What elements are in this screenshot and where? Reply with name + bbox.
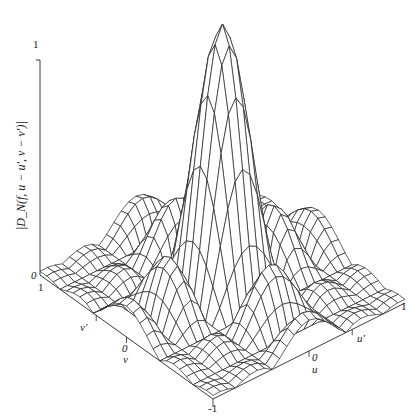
corner-tick-neg1: -1 [208,403,217,414]
surface-mesh [40,24,405,395]
z-tick-1: 1 [33,39,39,50]
z-tick-0: 0 [31,270,37,281]
v-axis-label: v [123,354,128,365]
u-prime-label: u′ [357,333,365,344]
surface-plot [0,0,412,419]
v-tick-1: 1 [38,282,44,293]
u-tick-0: 0 [312,352,318,363]
u-axis-label: u [312,364,318,375]
z-axis-label: |D_N(f, u − u′, v − v′)| [14,121,29,230]
v-prime-label: v′ [80,322,87,333]
u-tick-1: 1 [401,301,407,312]
